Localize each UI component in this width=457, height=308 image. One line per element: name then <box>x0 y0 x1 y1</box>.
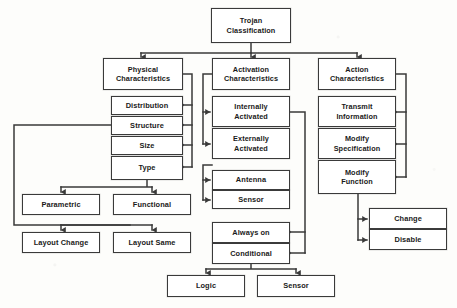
node-conditional[interactable]: Conditional <box>212 243 290 264</box>
node-structure-label: Structure <box>130 121 164 130</box>
node-functional[interactable]: Functional <box>113 194 191 215</box>
node-distribution[interactable]: Distribution <box>111 96 183 115</box>
node-sensor2[interactable]: Sensor <box>257 275 335 297</box>
node-action-label: Action Characteristics <box>330 65 384 83</box>
node-internally[interactable]: Internally Activated <box>212 96 290 127</box>
edge-physical-bus <box>183 74 192 167</box>
node-externally[interactable]: Externally Activated <box>212 128 290 159</box>
node-internally-label: Internally Activated <box>234 102 268 120</box>
node-alwayson[interactable]: Always on <box>212 222 290 243</box>
node-type-label: Type <box>138 163 155 172</box>
node-activation-label: Activation Characteristics <box>224 65 278 83</box>
node-layoutchange[interactable]: Layout Change <box>22 232 100 253</box>
node-transmit[interactable]: Transmit Information <box>318 96 396 127</box>
node-layoutsame[interactable]: Layout Same <box>113 232 191 253</box>
edge-conditional-bus <box>206 264 296 269</box>
node-change-label: Change <box>394 214 422 223</box>
node-sensor2-label: Sensor <box>283 281 309 290</box>
node-externally-label: Externally Activated <box>233 134 269 152</box>
node-root-label: Trojan Classification <box>227 16 276 34</box>
edge-type-bus <box>61 180 152 187</box>
edge-activation-bus-lower <box>203 165 212 200</box>
node-sensor1-label: Sensor <box>238 195 264 204</box>
node-size[interactable]: Size <box>111 136 183 155</box>
edge-activation-bus-upper <box>203 74 212 144</box>
node-functional-label: Functional <box>133 200 171 209</box>
node-type[interactable]: Type <box>111 156 183 180</box>
node-sensor1[interactable]: Sensor <box>212 190 290 209</box>
node-root[interactable]: Trojan Classification <box>211 8 291 43</box>
node-change[interactable]: Change <box>369 208 447 229</box>
node-action[interactable]: Action Characteristics <box>318 58 396 90</box>
edge-action-bus <box>396 74 406 177</box>
node-conditional-label: Conditional <box>230 249 272 258</box>
node-modifyfunc-label: Modify Function <box>341 168 373 186</box>
node-parametric[interactable]: Parametric <box>22 194 100 215</box>
node-transmit-label: Transmit Information <box>336 102 377 120</box>
node-disable-label: Disable <box>395 235 422 244</box>
node-structure[interactable]: Structure <box>111 116 183 135</box>
node-distribution-label: Distribution <box>126 101 169 110</box>
node-logic[interactable]: Logic <box>167 275 245 297</box>
node-physical-label: Physical Characteristics <box>116 65 170 83</box>
node-modifyspec-label: Modify Specification <box>334 134 381 152</box>
node-logic-label: Logic <box>196 281 216 290</box>
node-antenna-label: Antenna <box>236 175 266 184</box>
node-layoutchange-label: Layout Change <box>34 238 89 247</box>
node-modifyspec[interactable]: Modify Specification <box>318 128 396 159</box>
node-alwayson-label: Always on <box>232 228 269 237</box>
node-size-label: Size <box>139 141 154 150</box>
node-disable[interactable]: Disable <box>369 229 447 250</box>
node-modifyfunc[interactable]: Modify Function <box>318 160 396 194</box>
node-antenna[interactable]: Antenna <box>212 170 290 190</box>
node-parametric-label: Parametric <box>41 200 80 209</box>
diagram-canvas: Trojan ClassificationPhysical Characteri… <box>0 0 457 308</box>
node-physical[interactable]: Physical Characteristics <box>103 58 183 90</box>
node-activation[interactable]: Activation Characteristics <box>212 58 290 90</box>
node-layoutsame-label: Layout Same <box>128 238 175 247</box>
